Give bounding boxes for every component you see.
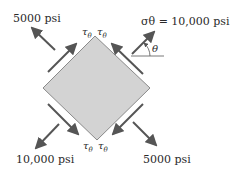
label-bottom-left-stress: 10,000 psi — [16, 154, 74, 165]
label-shear-bottom-1: τθ — [83, 141, 93, 154]
label-shear-top-1: τθ — [82, 27, 92, 40]
angle-arc — [144, 43, 150, 56]
label-bottom-right-stress: 5000 psi — [143, 154, 191, 165]
label-top-left-stress: 5000 psi — [13, 13, 61, 24]
normal-stress-arrow-bottom-right — [133, 122, 156, 145]
label-angle: θ — [152, 44, 158, 54]
normal-stress-arrow-top-left — [32, 28, 55, 50]
label-shear-top-2: τθ — [97, 27, 107, 40]
normal-stress-arrow-bottom-left — [36, 124, 59, 148]
label-shear-bottom-2: τθ — [98, 141, 108, 154]
normal-stress-arrow-top-right — [132, 32, 154, 54]
label-normal-stress: σθ = 10,000 psi — [141, 16, 230, 27]
